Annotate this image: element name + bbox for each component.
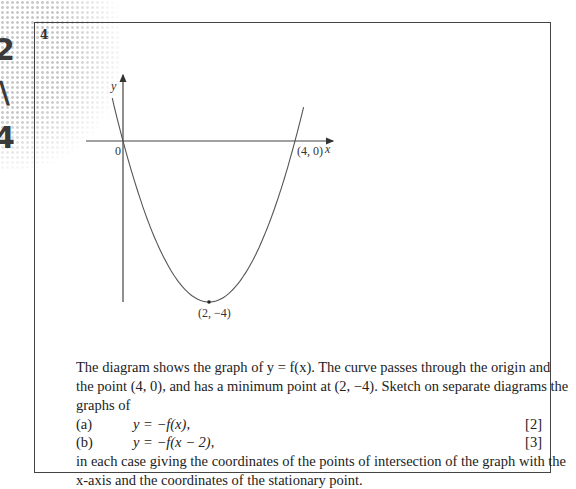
y-axis-label: y [110,79,117,93]
minimum-label: (2, −4) [198,306,231,320]
intro-line-1: The diagram shows the graph of y = f(x).… [76,358,550,377]
intro-line-2: the point (4, 0), and has a minimum poin… [76,377,568,396]
part-a-equation: y = −f(x), [133,416,190,433]
root-label: (4, 0) [297,144,323,158]
minimum-point-dot [207,300,211,304]
intro-line-3: graphs of [76,396,130,415]
closing-line-1: in each case giving the coordinates of t… [76,452,566,471]
part-a-marks: [2] [525,416,542,433]
part-b-equation: y = −f(x − 2), [133,434,214,451]
closing-line-2: x-axis and the coordinates of the statio… [76,471,363,489]
x-axis-label: x [324,142,331,156]
part-b-label: (b) [76,434,93,451]
parabola-curve [112,98,303,302]
part-a-label: (a) [76,416,92,433]
origin-label: 0 [115,144,121,158]
part-b-marks: [3] [525,434,542,451]
